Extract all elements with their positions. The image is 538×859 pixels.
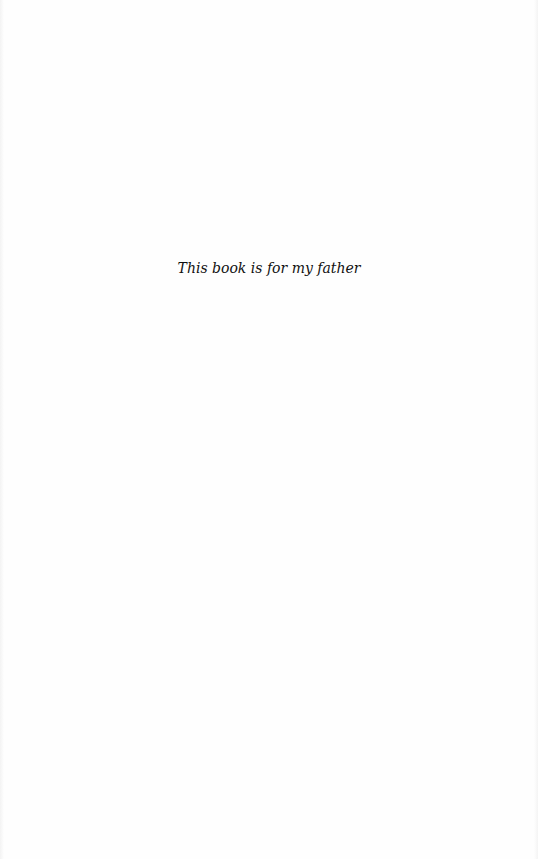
- page-edge-left: [0, 0, 4, 859]
- page-edge-right: [534, 0, 538, 859]
- dedication-text: This book is for my father: [0, 258, 538, 278]
- book-page: This book is for my father: [0, 0, 538, 859]
